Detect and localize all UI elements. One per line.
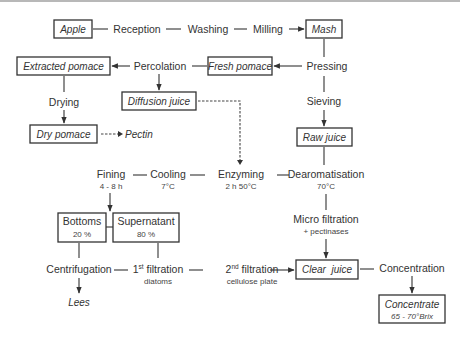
- arrow-head: [237, 160, 243, 165]
- dearomatisation-temperature: 70°C: [317, 182, 335, 191]
- diffusion-juice-label: Diffusion juice: [128, 96, 191, 107]
- extracted-pomace-label: Extracted pomace: [23, 61, 104, 72]
- step-sieving: Sieving: [307, 95, 342, 107]
- step-milling: Milling: [253, 23, 283, 35]
- step-micro-filtration: Micro filtration: [293, 213, 359, 225]
- clear-juice-label: Clear juice: [302, 264, 352, 275]
- first-filtration-medium: diatoms: [144, 277, 172, 286]
- process-flowchart: Apple Reception Washing Milling Mash Ext…: [0, 0, 460, 341]
- node-supernatant: Supernatant 80 %: [113, 213, 179, 242]
- fresh-pomace-label: Fresh pomace: [208, 61, 272, 72]
- step-centrifugation: Centrifugation: [46, 263, 112, 275]
- node-raw-juice: Raw juice: [297, 128, 352, 146]
- step-reception: Reception: [113, 23, 160, 35]
- node-diffusion-juice: Diffusion juice: [122, 92, 196, 110]
- node-apple: Apple: [54, 20, 92, 38]
- micro-filtration-note: + pectinases: [303, 227, 348, 236]
- node-clear-juice: Clear juice: [296, 260, 358, 279]
- step-percolation: Percolation: [134, 60, 187, 72]
- node-dry-pomace: Dry pomace: [30, 125, 97, 143]
- supernatant-percentage: 80 %: [137, 230, 155, 239]
- node-extracted-pomace: Extracted pomace: [17, 57, 110, 75]
- step-enzyming: Enzyming: [218, 168, 264, 180]
- arrow-head: [118, 131, 123, 137]
- pectin-label: Pectin: [125, 129, 153, 140]
- supernatant-label: Supernatant: [117, 215, 174, 227]
- step-fining: Fining: [97, 168, 126, 180]
- step-dearomatisation: Dearomatisation: [288, 168, 365, 180]
- node-concentrate: Concentrate 65 - 70°Brix: [379, 295, 445, 323]
- lees-label: Lees: [68, 297, 90, 308]
- dashed-connector: [198, 101, 240, 162]
- enzyming-conditions: 2 h 50°C: [225, 182, 256, 191]
- step-first-filtration: 1st filtration: [133, 263, 184, 275]
- dry-pomace-label: Dry pomace: [37, 129, 91, 140]
- raw-juice-label: Raw juice: [303, 132, 347, 143]
- step-second-filtration: 2nd filtration: [226, 263, 279, 275]
- fining-duration: 4 - 8 h: [100, 182, 123, 191]
- bottoms-label: Bottoms: [63, 215, 102, 227]
- mash-label: Mash: [312, 24, 337, 35]
- second-filtration-medium: cellulose plate: [227, 277, 278, 286]
- step-cooling: Cooling: [150, 168, 186, 180]
- apple-label: Apple: [59, 24, 86, 35]
- concentrate-label: Concentrate: [385, 299, 440, 310]
- concentrate-brix: 65 - 70°Brix: [391, 312, 434, 321]
- step-washing: Washing: [188, 23, 229, 35]
- node-fresh-pomace: Fresh pomace: [208, 57, 272, 75]
- node-bottoms: Bottoms 20 %: [58, 213, 106, 242]
- step-concentration: Concentration: [379, 262, 445, 274]
- step-pressing: Pressing: [307, 60, 348, 72]
- node-mash: Mash: [306, 20, 342, 38]
- step-drying: Drying: [49, 96, 80, 108]
- cooling-temperature: 7°C: [161, 182, 175, 191]
- bottoms-percentage: 20 %: [73, 230, 91, 239]
